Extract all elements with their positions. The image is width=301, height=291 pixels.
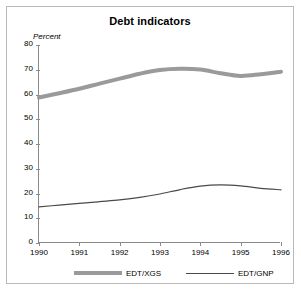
- x-tick-label: 1991: [70, 248, 88, 257]
- y-tick-label: 0: [29, 237, 33, 246]
- x-tick-label: 1993: [151, 248, 169, 257]
- y-tick-label: 60: [24, 89, 33, 98]
- y-tick-label: 30: [24, 163, 33, 172]
- x-tick-label: 1996: [272, 248, 290, 257]
- series-canvas: [39, 45, 281, 243]
- y-tick-label: 20: [24, 188, 33, 197]
- x-tick-label: 1990: [30, 248, 48, 257]
- x-tick-label: 1994: [191, 248, 209, 257]
- legend-item-edt-gnp: EDT/GNP: [186, 266, 274, 280]
- y-tick-label: 50: [24, 113, 33, 122]
- y-tick-label: 40: [24, 138, 33, 147]
- legend-label-edt-gnp: EDT/GNP: [238, 269, 274, 278]
- x-tick-mark: [281, 242, 282, 246]
- y-tick-label: 80: [24, 39, 33, 48]
- chart-title: Debt indicators: [6, 15, 294, 27]
- series-line-edt-gnp: [39, 185, 281, 207]
- chart-figure: Debt indicators Percent 0102030405060708…: [0, 0, 301, 291]
- legend-label-edt-xgs: EDT/XGS: [126, 269, 161, 278]
- legend-item-edt-xgs: EDT/XGS: [74, 266, 161, 280]
- y-tick-label: 70: [24, 64, 33, 73]
- x-tick-label: 1992: [111, 248, 129, 257]
- plot-area: 01020304050607080 1990199119921993199419…: [38, 45, 280, 243]
- x-tick-label: 1995: [232, 248, 250, 257]
- y-axis-label: Percent: [33, 32, 61, 41]
- y-tick-label: 10: [24, 212, 33, 221]
- chart-legend: EDT/XGS EDT/GNP: [38, 266, 280, 280]
- series-line-edt-xgs: [39, 69, 281, 98]
- legend-swatch-edt-gnp: [186, 273, 234, 274]
- legend-swatch-edt-xgs: [74, 271, 122, 275]
